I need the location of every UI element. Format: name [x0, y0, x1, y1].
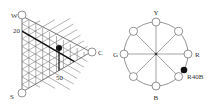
diagram-canvas: W S C 20 50 Y R B G R40B [0, 0, 213, 110]
color-triangle: W S C 20 50 [10, 11, 103, 101]
node-rb [175, 73, 183, 81]
tick-label-20: 20 [13, 27, 21, 35]
label-w: W [11, 12, 18, 20]
node-g [120, 50, 128, 58]
label-s: S [10, 93, 14, 101]
corner-node-c [88, 48, 96, 56]
label-g: G [113, 51, 118, 59]
label-r: R [195, 51, 200, 59]
node-yr [175, 27, 183, 35]
sample-point [56, 45, 62, 51]
tick-label-50: 50 [56, 74, 64, 82]
center-point [155, 53, 158, 56]
label-c: C [98, 49, 103, 57]
node-gy [129, 27, 137, 35]
triangle-grid [22, 18, 88, 89]
corner-node-s [18, 89, 26, 97]
node-b [152, 82, 160, 90]
label-b: B [154, 94, 159, 102]
color-circle: Y R B G R40B [113, 9, 204, 102]
node-r [184, 50, 192, 58]
label-y: Y [154, 9, 159, 17]
node-y [152, 18, 160, 26]
node-bg [129, 73, 137, 81]
corner-node-w [18, 11, 26, 19]
label-r40b: R40B [187, 73, 204, 81]
